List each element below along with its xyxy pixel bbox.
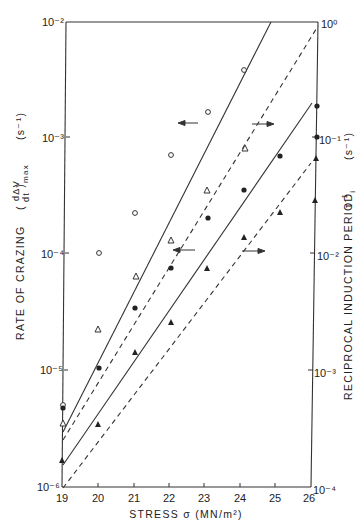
svg-text:(s⁻¹): (s⁻¹) [14, 112, 26, 140]
series-open-circles [61, 68, 247, 408]
svg-text:10⁻³: 10⁻³ [42, 132, 64, 144]
svg-text:10⁻¹: 10⁻¹ [319, 134, 341, 146]
svg-text:10⁻³: 10⁻³ [314, 367, 336, 379]
fit-line-filled-circles [63, 103, 312, 465]
fit-lines [63, 22, 318, 488]
series-open-triangles [60, 145, 248, 426]
series-filled-triangles [59, 155, 319, 463]
svg-text:24: 24 [234, 492, 246, 504]
svg-text:22: 22 [163, 492, 175, 504]
x-tick-labels: 19 20 21 22 23 24 25 26 [56, 492, 315, 504]
svg-text:10⁻²: 10⁻² [42, 16, 64, 28]
derivative-fraction: ( dΔVdt )max [11, 164, 31, 210]
svg-text:25: 25 [269, 492, 281, 504]
svg-text:26: 26 [303, 492, 315, 504]
svg-text:10⁻⁵: 10⁻⁵ [40, 364, 63, 376]
svg-text:10⁻⁴: 10⁻⁴ [41, 248, 64, 260]
svg-text:10⁻⁴: 10⁻⁴ [313, 484, 336, 496]
svg-text:23: 23 [198, 492, 210, 504]
fit-line-open-triangles [63, 26, 318, 440]
tau-symbol: τ-1i [340, 190, 357, 208]
svg-text:RATE OF CRAZING: RATE OF CRAZING [14, 226, 26, 340]
x-axis-title: STRESS σ (MN/m²) [129, 508, 243, 520]
arrow-left-icon [173, 248, 195, 253]
svg-text:19: 19 [56, 492, 68, 504]
series-filled-circles [60, 103, 319, 410]
y-left-axis-title: RATE OF CRAZING ( dΔVdt )max (s⁻¹) [11, 112, 31, 340]
axis-arrows [173, 121, 274, 254]
y-left-tick-labels: 10⁻² 10⁻³ 10⁻⁴ 10⁻⁵ 10⁻⁶ [37, 16, 64, 493]
svg-text:21: 21 [128, 492, 140, 504]
fit-line-filled-triangles [63, 163, 311, 488]
fit-line-open-circles [63, 22, 271, 432]
y-right-axis-title: RECIPROCAL INDUCTION PERIOD τ-1i (s⁻¹) [340, 132, 357, 400]
arrow-left-icon [178, 121, 198, 126]
svg-text:(s⁻¹): (s⁻¹) [342, 132, 354, 160]
x-ticks [98, 483, 275, 487]
svg-text:10⁰: 10⁰ [321, 18, 338, 30]
arrow-right-icon [252, 122, 274, 127]
svg-text:20: 20 [92, 492, 104, 504]
crazing-rate-chart: 10⁻² 10⁻³ 10⁻⁴ 10⁻⁵ 10⁻⁶ 10⁰ 10⁻¹ 10⁻² 1… [0, 0, 363, 525]
svg-text:10⁻²: 10⁻² [317, 250, 339, 262]
svg-text:RECIPROCAL INDUCTION PERIOD: RECIPROCAL INDUCTION PERIOD [342, 193, 354, 400]
